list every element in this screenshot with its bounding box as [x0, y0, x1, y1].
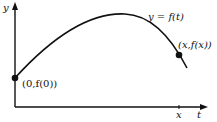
function-curve: [15, 14, 187, 78]
y-axis-arrow-icon: [12, 2, 18, 10]
x-point-label: (x,f(x)): [178, 40, 212, 50]
curve-label: y = f(t): [148, 12, 184, 22]
x-tick-label: x: [176, 110, 182, 120]
diagram-canvas: [0, 0, 217, 122]
function-diagram: y t x y = f(t) (0,f(0)) (x,f(x)): [0, 0, 217, 122]
t-axis-label: t: [197, 110, 201, 120]
point-x: [176, 52, 183, 59]
point-start: [12, 75, 19, 82]
x-axis-arrow-icon: [200, 104, 208, 110]
start-point-label: (0,f(0)): [22, 79, 57, 89]
y-axis-label: y: [3, 3, 9, 13]
